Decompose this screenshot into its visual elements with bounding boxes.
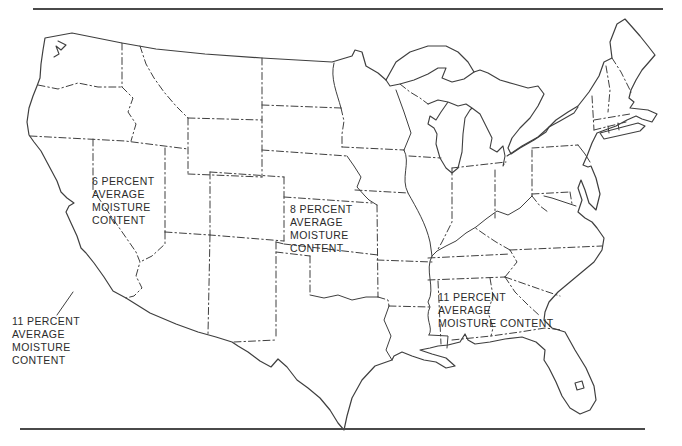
moisture-label-line: CONTENT — [92, 214, 155, 227]
document-page: 6 PERCENT AVERAGE MOISTURE CONTENT 8 PER… — [0, 0, 682, 446]
moisture-label-line: AVERAGE — [12, 328, 80, 341]
moisture-label-line: CONTENT — [290, 242, 353, 255]
bottom-rule — [20, 428, 645, 430]
moisture-label-line: CONTENT — [12, 354, 80, 367]
moisture-label-line: MOISTURE CONTENT — [438, 317, 553, 330]
moisture-label-line: MOISTURE — [12, 341, 80, 354]
moisture-label-line: 8 PERCENT — [290, 203, 353, 216]
moisture-label-line: MOISTURE — [92, 201, 155, 214]
moisture-label-line: 11 PERCENT — [438, 291, 553, 304]
moisture-label-line: 11 PERCENT — [12, 315, 80, 328]
moisture-label-west-coast: 11 PERCENT AVERAGE MOISTURE CONTENT — [12, 315, 80, 367]
moisture-label-line: AVERAGE — [438, 304, 553, 317]
label-leader-line — [57, 292, 73, 315]
moisture-label-central: 8 PERCENT AVERAGE MOISTURE CONTENT — [290, 203, 353, 255]
moisture-label-line: MOISTURE — [290, 229, 353, 242]
moisture-label-line: 6 PERCENT — [92, 175, 155, 188]
moisture-label-west-interior: 6 PERCENT AVERAGE MOISTURE CONTENT — [92, 175, 155, 227]
moisture-label-line: AVERAGE — [92, 188, 155, 201]
moisture-label-line: AVERAGE — [290, 216, 353, 229]
moisture-label-southeast: 11 PERCENT AVERAGE MOISTURE CONTENT — [438, 291, 553, 330]
